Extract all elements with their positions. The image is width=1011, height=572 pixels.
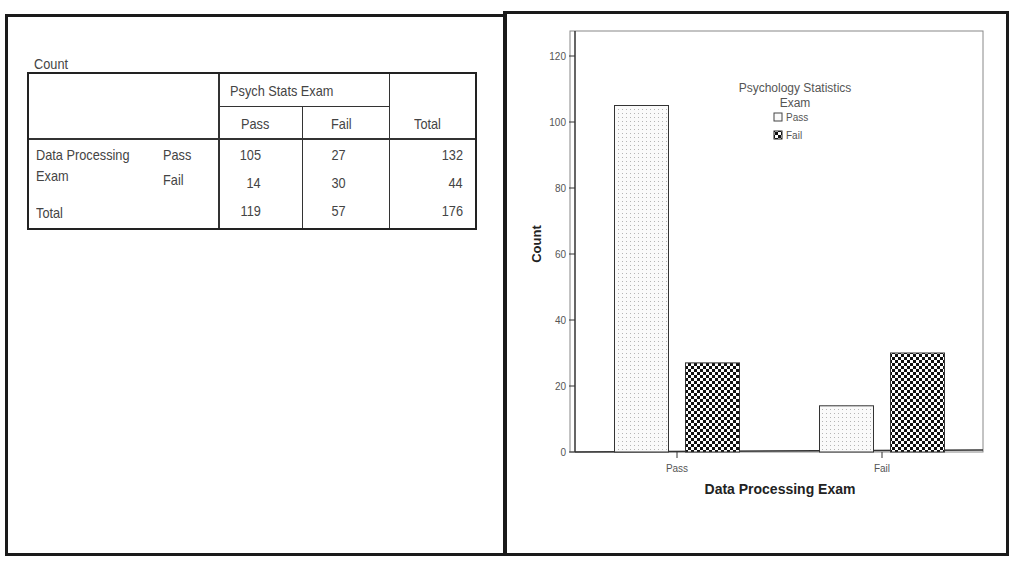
bars bbox=[615, 106, 945, 453]
legend-swatch-fail bbox=[774, 131, 782, 139]
cell: 57 bbox=[332, 202, 346, 219]
row-label-pass: Pass bbox=[163, 146, 191, 163]
bar-chart: 020406080100120 PassFail Count Data Proc… bbox=[505, 12, 1005, 552]
column-group-header: Psych Stats Exam bbox=[230, 82, 333, 99]
legend-title-line2: Exam bbox=[780, 96, 811, 110]
header-divider bbox=[29, 138, 475, 140]
cell: 105 bbox=[240, 146, 261, 163]
column-header-pass: Pass bbox=[241, 115, 269, 132]
crosstab-table: Psych Stats Exam Pass Fail Total Data Pr… bbox=[27, 72, 477, 230]
col-divider bbox=[302, 106, 303, 228]
cell: 44 bbox=[449, 174, 463, 191]
bar-pass-fail bbox=[686, 363, 740, 452]
y-axis-ticks: 020406080100120 bbox=[549, 51, 575, 458]
y-tick-label: 100 bbox=[549, 117, 566, 128]
y-tick-label: 80 bbox=[555, 183, 567, 194]
cell: 132 bbox=[442, 146, 463, 163]
x-axis-ticks: PassFail bbox=[666, 452, 890, 474]
legend-title: Psychology Statistics bbox=[739, 81, 852, 95]
x-axis-label: Data Processing Exam bbox=[705, 481, 856, 497]
cell: 119 bbox=[241, 202, 261, 219]
row-group-label: Data Processing bbox=[36, 146, 130, 163]
subheader-divider bbox=[218, 106, 389, 107]
table-caption: Count bbox=[34, 55, 68, 72]
y-tick-label: 40 bbox=[555, 315, 567, 326]
bar-fail-pass bbox=[820, 406, 874, 452]
cell: 176 bbox=[442, 202, 463, 219]
col-divider bbox=[218, 74, 220, 228]
y-axis-label: Count bbox=[529, 225, 544, 263]
row-group-label-line2: Exam bbox=[36, 167, 69, 184]
bar-pass-pass bbox=[615, 106, 669, 453]
legend: Psychology Statistics Exam Pass Fail bbox=[739, 81, 852, 141]
col-divider bbox=[389, 74, 390, 228]
row-label-total: Total bbox=[36, 204, 63, 221]
y-tick-label: 120 bbox=[549, 51, 566, 62]
legend-entry-pass: Pass bbox=[786, 112, 808, 123]
x-tick-label: Fail bbox=[874, 463, 890, 474]
x-tick-label: Pass bbox=[666, 463, 688, 474]
legend-swatch-pass bbox=[774, 113, 782, 121]
cell: 27 bbox=[332, 146, 346, 163]
y-tick-label: 60 bbox=[555, 249, 567, 260]
cell: 30 bbox=[332, 174, 346, 191]
cell: 14 bbox=[247, 174, 261, 191]
legend-entry-fail: Fail bbox=[786, 130, 802, 141]
bar-fail-fail bbox=[891, 353, 945, 452]
row-label-fail: Fail bbox=[163, 171, 184, 188]
y-tick-label: 0 bbox=[560, 447, 566, 458]
y-tick-label: 20 bbox=[555, 381, 567, 392]
column-header-fail: Fail bbox=[331, 115, 352, 132]
column-header-total: Total bbox=[414, 115, 441, 132]
